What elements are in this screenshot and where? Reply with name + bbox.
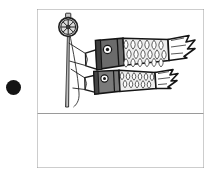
koinobori-illustration <box>37 9 204 168</box>
illustration-stage <box>0 0 213 176</box>
list-bullet-icon <box>6 80 21 95</box>
